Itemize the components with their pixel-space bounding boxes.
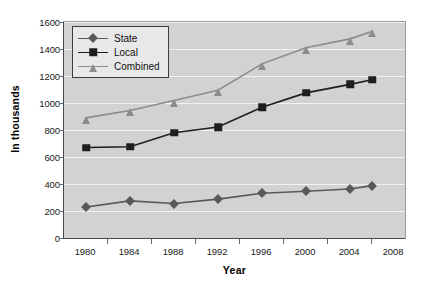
legend-label: State — [114, 33, 137, 44]
x-tick-mark — [151, 239, 152, 244]
data-point-combined-2006 — [368, 29, 376, 37]
x-tick-mark — [195, 239, 196, 244]
x-tick-mark — [371, 239, 372, 244]
data-point-local-1984 — [126, 143, 134, 151]
y-tick-label: 200 — [22, 206, 60, 217]
data-point-combined-1984 — [126, 108, 134, 116]
legend-label: Local — [114, 47, 138, 58]
legend-item-local[interactable]: Local — [78, 45, 160, 59]
y-tick-label: 800 — [22, 125, 60, 136]
diamond-marker-icon — [88, 33, 98, 43]
legend-swatch-state — [78, 32, 108, 45]
data-point-local-1988 — [170, 129, 178, 137]
x-tick-mark — [283, 239, 284, 244]
triangle-marker-icon — [89, 64, 97, 72]
data-point-local-1992 — [214, 123, 222, 131]
square-marker-icon — [89, 48, 97, 56]
data-point-local-2006 — [368, 76, 376, 84]
data-point-combined-1980 — [82, 116, 90, 124]
x-tick-label: 2008 — [370, 246, 416, 257]
data-point-combined-2000 — [302, 46, 310, 54]
x-axis-title: Year — [63, 264, 406, 276]
legend-item-state[interactable]: State — [78, 31, 160, 45]
y-tick-label: 1200 — [22, 71, 60, 82]
y-axis-ticks: 02004006008001000120014001600 — [20, 0, 60, 286]
x-tick-mark — [327, 239, 328, 244]
x-tick-mark — [107, 239, 108, 244]
legend-item-combined[interactable]: Combined — [78, 59, 160, 73]
x-tick-label: 1992 — [194, 246, 240, 257]
x-tick-label: 1996 — [238, 246, 284, 257]
data-point-local-2004 — [346, 81, 354, 89]
x-tick-label: 1984 — [106, 246, 152, 257]
data-point-local-1996 — [258, 104, 266, 112]
data-point-combined-2004 — [346, 37, 354, 45]
data-point-combined-1992 — [214, 88, 222, 96]
data-point-local-1980 — [82, 144, 90, 152]
y-tick-label: 0 — [22, 233, 60, 244]
y-tick-label: 1400 — [22, 44, 60, 55]
y-tick-label: 600 — [22, 152, 60, 163]
data-point-combined-1988 — [170, 99, 178, 107]
data-point-combined-1996 — [258, 62, 266, 70]
legend-swatch-local — [78, 46, 108, 59]
x-tick-label: 1988 — [150, 246, 196, 257]
x-tick-label: 2000 — [282, 246, 328, 257]
plot-frame-right — [405, 21, 406, 239]
data-point-local-2000 — [302, 89, 310, 97]
y-tick-label: 1000 — [22, 98, 60, 109]
line-chart: In thousands 020040060080010001200140016… — [0, 0, 427, 286]
x-tick-label: 2004 — [326, 246, 372, 257]
x-tick-label: 1980 — [62, 246, 108, 257]
legend-swatch-combined — [78, 60, 108, 73]
y-tick-label: 1600 — [22, 17, 60, 28]
legend-label: Combined — [114, 61, 160, 72]
y-tick-label: 400 — [22, 179, 60, 190]
x-tick-mark — [239, 239, 240, 244]
chart-legend: StateLocalCombined — [72, 26, 169, 78]
